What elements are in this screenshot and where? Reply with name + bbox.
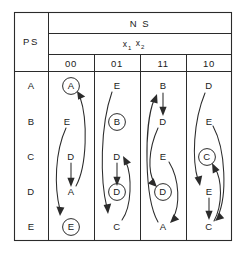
column-header-00: 00 [65, 58, 77, 69]
column-header-11: 11 [157, 58, 168, 69]
cell-01-C: D [113, 151, 120, 162]
input-variable-label: x 1 x 2 [123, 38, 145, 50]
cell-11-D: D [159, 186, 166, 197]
cell-00-E: E [68, 221, 75, 232]
column-header-10: 10 [203, 58, 215, 69]
cell-00-A: A [68, 80, 75, 91]
cell-01-E: C [113, 221, 120, 232]
cell-01-B: B [114, 116, 121, 127]
cell-00-D: A [68, 186, 75, 197]
flow-table-figure: PS N S x 1 x 2 00 01 11 10 A B C D E A E… [0, 0, 243, 255]
cell-11-B: D [159, 116, 166, 127]
ps-header: PS [23, 36, 39, 47]
column-00-cells: A E D A E [63, 78, 80, 236]
column-header-01: 01 [111, 58, 123, 69]
ns-header: N S [130, 18, 151, 29]
cell-01-D: D [113, 186, 120, 197]
row-label-A: A [28, 80, 35, 91]
input-subscript-2: 2 [141, 44, 145, 50]
column-01-cells: E B D D C [109, 80, 126, 232]
cell-10-B: E [206, 116, 213, 127]
row-label-E: E [28, 221, 35, 232]
cell-11-E: A [160, 221, 167, 232]
row-label-D: D [27, 186, 34, 197]
cell-10-E: C [205, 221, 212, 232]
cell-10-A: D [205, 80, 212, 91]
cell-00-C: D [67, 151, 74, 162]
input-label-x1: x [123, 39, 128, 49]
cell-11-A: B [160, 80, 167, 91]
flow-table-svg: PS N S x 1 x 2 00 01 11 10 A B C D E A E… [0, 0, 243, 255]
cell-00-B: E [64, 116, 71, 127]
row-label-C: C [27, 151, 34, 162]
input-label-x2: x [136, 38, 141, 48]
cell-10-C: C [203, 151, 210, 162]
cell-10-D: E [206, 186, 213, 197]
row-label-B: B [28, 116, 35, 127]
cell-11-C: E [160, 151, 167, 162]
cell-01-A: E [114, 80, 121, 91]
input-subscript-1: 1 [128, 45, 132, 51]
